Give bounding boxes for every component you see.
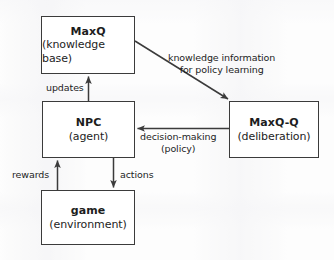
edge-label-decision: decision-making (policy) [140, 131, 216, 155]
edge-label-decision-line1: decision-making [140, 131, 216, 143]
node-maxq-q-title: MaxQ-Q [249, 116, 299, 129]
node-maxq-q-subtitle: (deliberation) [237, 130, 310, 143]
edge-label-decision-line2: (policy) [140, 143, 216, 155]
node-maxq-title: MaxQ [70, 25, 105, 38]
edge-label-knowledge: knowledge information for policy learnin… [168, 52, 275, 76]
node-npc[interactable]: NPC (agent) [42, 101, 135, 158]
edge-label-actions-line1: actions [120, 169, 154, 181]
edge-label-updates-line1: updates [46, 82, 84, 94]
node-npc-subtitle: (agent) [69, 130, 109, 143]
node-maxq-subtitle: (knowledge base) [42, 38, 134, 65]
node-game[interactable]: game (environment) [41, 190, 135, 245]
edge-label-updates: updates [46, 82, 84, 94]
node-npc-title: NPC [76, 116, 102, 129]
edge-label-knowledge-line2: for policy learning [168, 64, 275, 76]
node-game-subtitle: (environment) [49, 218, 126, 231]
node-maxq[interactable]: MaxQ (knowledge base) [41, 16, 135, 74]
edge-label-knowledge-line1: knowledge information [168, 52, 275, 64]
diagram-canvas: MaxQ (knowledge base) NPC (agent) game (… [0, 0, 334, 260]
edge-label-rewards: rewards [12, 169, 49, 181]
node-game-title: game [71, 204, 106, 217]
node-maxq-q[interactable]: MaxQ-Q (deliberation) [229, 101, 319, 158]
edge-label-actions: actions [120, 169, 154, 181]
edge-label-rewards-line1: rewards [12, 169, 49, 181]
